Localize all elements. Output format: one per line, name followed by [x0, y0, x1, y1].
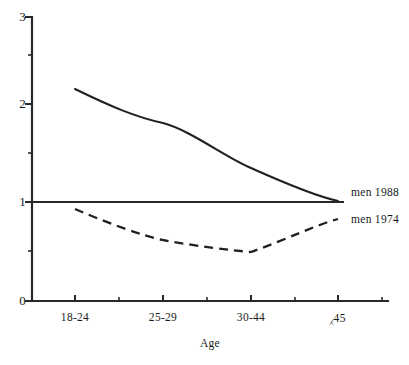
y-axis-label-1: 1: [4, 194, 26, 210]
y-axis-label-0: 0: [4, 293, 26, 309]
y-axis-label-2: 2: [4, 96, 26, 112]
x-axis-label-30-44: 30-44: [221, 311, 281, 323]
y-axis-label-3: 3: [4, 9, 26, 25]
x-axis-title: Age: [170, 337, 250, 349]
legend-label-men-1988: men 1988: [351, 186, 399, 198]
x-axis-label-25-29: 25-29: [133, 311, 193, 323]
legend-label-men-1974: men 1974: [351, 213, 399, 225]
series-line-men-1974: [75, 209, 338, 252]
series-line-men-1988: [75, 89, 338, 201]
chart-figure: 3 2 1 0 18-24 25-29 30-44 ⁁45 Age men 19…: [0, 0, 409, 365]
x-axis-label-45-plus: ⁁45: [308, 311, 368, 325]
x-axis-label-18-24: 18-24: [45, 311, 105, 323]
